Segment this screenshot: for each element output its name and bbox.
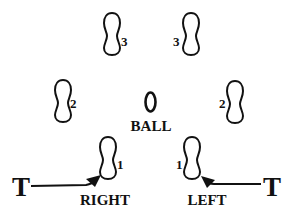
footprint-icon <box>227 81 243 123</box>
footprint-right-3: 3 <box>104 13 128 55</box>
ball-label: BALL <box>131 118 172 134</box>
ball: BALL <box>131 93 172 135</box>
arrow-head-icon <box>201 176 215 188</box>
ball-icon <box>146 93 156 112</box>
step-number: 1 <box>176 157 183 172</box>
footprint-left-2: 2 <box>219 81 243 123</box>
footwork-diagram: 3 3 2 2 BALL 1 1 T RIGHT T LEFT <box>0 0 295 220</box>
footprint-icon <box>55 80 71 122</box>
step-number: 2 <box>219 96 226 111</box>
footprint-left-3: 3 <box>173 13 199 55</box>
footprint-left-1: 1 <box>176 137 200 179</box>
foot-label-right: RIGHT <box>80 192 130 208</box>
arrow-line <box>206 181 261 184</box>
footprint-icon <box>100 137 116 179</box>
step-number: 1 <box>117 157 124 172</box>
footprint-icon <box>104 13 120 55</box>
step-number: 3 <box>173 34 180 49</box>
foot-label-left: LEFT <box>187 192 226 208</box>
step-number: 2 <box>70 96 77 111</box>
footprint-right-1: 1 <box>100 137 124 179</box>
footprint-icon <box>183 13 199 55</box>
step-number: 3 <box>121 34 128 49</box>
arrow-line <box>31 180 96 186</box>
t-label: T <box>263 172 281 202</box>
t-label: T <box>12 172 30 202</box>
footprint-right-2: 2 <box>55 80 77 122</box>
start-marker-right: T LEFT <box>187 172 281 208</box>
footprint-icon <box>184 137 200 179</box>
